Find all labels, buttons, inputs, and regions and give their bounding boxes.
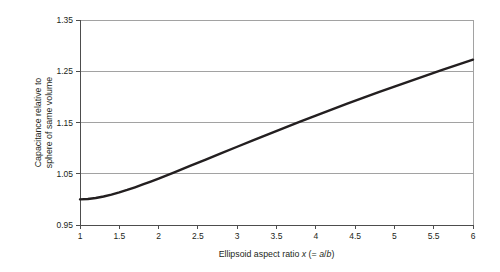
y-tick-label: 1.25 bbox=[56, 66, 73, 76]
capacitance-line-chart: 0.951.051.151.251.35 11.522.533.544.555.… bbox=[0, 0, 500, 272]
y-tick-label: 0.95 bbox=[56, 220, 73, 230]
x-axis-title-text: Ellipsoid aspect ratio x (= a/b) bbox=[219, 249, 335, 259]
x-tick-label: 3.5 bbox=[271, 231, 283, 241]
y-axis-title-text: Capacitance relative tosphere of same vo… bbox=[33, 77, 54, 169]
x-tick-label: 3 bbox=[235, 231, 240, 241]
y-tick-label: 1.15 bbox=[56, 118, 73, 128]
axis-ticks bbox=[76, 20, 473, 229]
y-tick-label: 1.05 bbox=[56, 169, 73, 179]
x-tick-label: 4.5 bbox=[349, 231, 361, 241]
x-tick-label: 1 bbox=[78, 231, 83, 241]
gridlines bbox=[80, 20, 473, 174]
x-tick-label: 4 bbox=[313, 231, 318, 241]
x-tick-label: 6 bbox=[471, 231, 476, 241]
x-tick-label: 5 bbox=[392, 231, 397, 241]
data-series bbox=[80, 60, 473, 200]
x-tick-labels: 11.522.533.544.555.56 bbox=[78, 231, 476, 241]
x-tick-label: 5.5 bbox=[428, 231, 440, 241]
y-tick-labels: 0.951.051.151.251.35 bbox=[56, 15, 73, 230]
y-tick-label: 1.35 bbox=[56, 15, 73, 25]
x-tick-label: 2.5 bbox=[192, 231, 204, 241]
x-tick-label: 1.5 bbox=[113, 231, 125, 241]
x-axis-title: Ellipsoid aspect ratio x (= a/b) bbox=[219, 249, 335, 259]
y-axis-title: Capacitance relative tosphere of same vo… bbox=[33, 77, 54, 169]
chart-figure: 0.951.051.151.251.35 11.522.533.544.555.… bbox=[0, 0, 500, 272]
series-line bbox=[80, 60, 473, 200]
x-tick-label: 2 bbox=[156, 231, 161, 241]
